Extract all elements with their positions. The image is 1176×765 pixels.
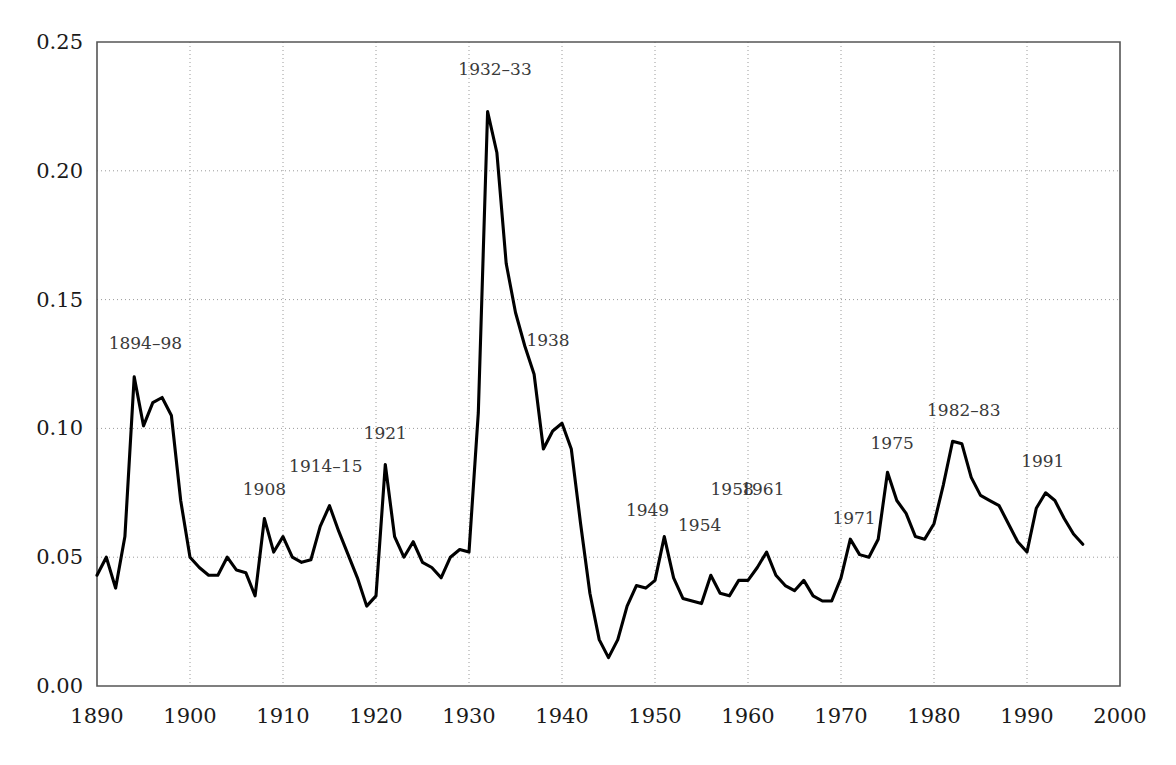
annotation-label: 1982–83 — [927, 400, 1000, 420]
x-tick-label: 1990 — [1000, 704, 1053, 728]
annotation-labels: 1894–9819081914–1519211932–3319381949195… — [109, 59, 1065, 535]
x-tick-label: 1910 — [256, 704, 309, 728]
annotation-label: 1932–33 — [458, 59, 531, 79]
x-tick-label: 1970 — [814, 704, 867, 728]
x-tick-label: 1960 — [721, 704, 774, 728]
x-tick-label: 1980 — [907, 704, 960, 728]
x-tick-label: 1890 — [70, 704, 123, 728]
y-tick-label: 0.10 — [36, 416, 83, 440]
x-tick-label: 1950 — [628, 704, 681, 728]
x-tick-label: 1920 — [349, 704, 402, 728]
x-tick-label: 1940 — [535, 704, 588, 728]
annotation-label: 1954 — [678, 515, 721, 535]
line-chart: 1890190019101920193019401950196019701980… — [0, 0, 1176, 765]
y-tick-labels: 0.000.050.100.150.200.25 — [36, 30, 83, 698]
annotation-label: 1961 — [741, 479, 784, 499]
annotation-label: 1971 — [832, 508, 875, 528]
y-tick-label: 0.05 — [36, 545, 83, 569]
x-gridlines — [190, 42, 1027, 686]
annotation-label: 1908 — [243, 479, 286, 499]
annotation-label: 1921 — [364, 423, 407, 443]
chart-figure: 1890190019101920193019401950196019701980… — [0, 0, 1176, 765]
axis-frame — [97, 42, 1120, 686]
x-tick-labels: 1890190019101920193019401950196019701980… — [70, 704, 1146, 728]
y-tick-label: 0.15 — [36, 288, 83, 312]
annotation-label: 1894–98 — [109, 333, 182, 353]
annotation-label: 1991 — [1021, 451, 1064, 471]
annotation-label: 1938 — [526, 330, 569, 350]
x-tick-label: 2000 — [1093, 704, 1146, 728]
series-line-1 — [97, 112, 1083, 658]
annotation-label: 1914–15 — [289, 456, 362, 476]
annotation-label: 1949 — [626, 500, 669, 520]
x-tick-label: 1930 — [442, 704, 495, 728]
y-tick-label: 0.20 — [36, 159, 83, 183]
x-tick-label: 1900 — [163, 704, 216, 728]
y-tick-label: 0.00 — [36, 674, 83, 698]
y-tick-label: 0.25 — [36, 30, 83, 54]
plot-border — [97, 42, 1120, 686]
annotation-label: 1975 — [871, 433, 914, 453]
data-series-group — [97, 112, 1083, 658]
